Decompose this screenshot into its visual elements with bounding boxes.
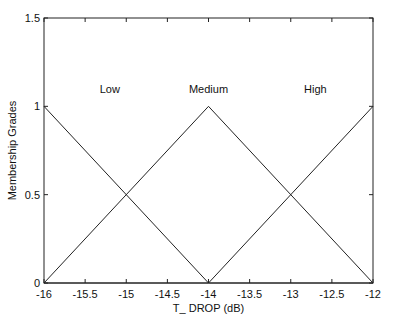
y-axis-label: Membership Grades	[6, 100, 18, 200]
x-tick-label: -12	[365, 288, 381, 300]
membership-function-chart: -16-15.5-15-14.5-14-13.5-13-12.5-1200.51…	[0, 0, 394, 324]
y-tick-label: 0.5	[25, 189, 40, 201]
set-label-medium: Medium	[189, 83, 228, 95]
set-labels: LowMediumHigh	[100, 83, 327, 95]
x-tick-label: -14	[201, 288, 217, 300]
plot-area	[44, 18, 373, 283]
series-layer	[44, 106, 373, 283]
axis-ticks: -16-15.5-15-14.5-14-13.5-13-12.5-1200.51…	[25, 12, 381, 300]
x-tick-label: -13	[283, 288, 299, 300]
x-tick-label: -14.5	[155, 288, 180, 300]
x-tick-label: -13.5	[237, 288, 262, 300]
set-label-high: High	[304, 83, 327, 95]
series-medium-line	[44, 106, 373, 283]
x-axis-label: T_ DROP (dB)	[173, 302, 244, 314]
x-tick-label: -12.5	[319, 288, 344, 300]
y-tick-label: 0	[34, 277, 40, 289]
x-tick-label: -15.5	[73, 288, 98, 300]
x-tick-label: -15	[118, 288, 134, 300]
set-label-low: Low	[100, 83, 120, 95]
y-tick-label: 1	[34, 100, 40, 112]
axes-box	[44, 18, 373, 283]
x-tick-label: -16	[36, 288, 52, 300]
y-tick-label: 1.5	[25, 12, 40, 24]
series-high-line	[44, 106, 373, 283]
series-low-line	[44, 106, 373, 283]
